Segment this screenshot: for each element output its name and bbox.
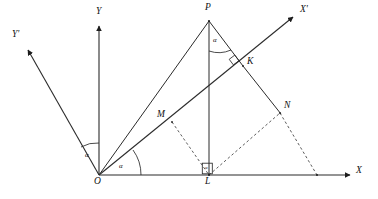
right-angle-markers-group (202, 55, 239, 174)
x-prime-axis-label: X' (300, 5, 308, 15)
point-O-label: O (94, 177, 101, 187)
segment-ML (172, 122, 209, 175)
dot-M (171, 121, 173, 123)
point-L-label: L (205, 177, 210, 187)
y-axis-label: Y (96, 7, 101, 17)
right-angle-marker-at-K (229, 55, 239, 65)
angle-arc-X-Xprime (133, 150, 141, 175)
angle-arc-Y-Yprime (81, 143, 99, 147)
point-M-label: M (157, 110, 165, 120)
x-axis-label: X (356, 166, 362, 176)
dot-N (279, 112, 281, 114)
x-prime-axis (99, 17, 293, 175)
point-P-label: P (205, 3, 211, 13)
geometry-diagram: X Y X' Y' O P L M K N α α α α (0, 0, 378, 199)
solid-segments-group (99, 21, 281, 175)
angle-label-alpha-at-L: α (205, 165, 208, 170)
angle-label-alpha-Y-Yprime: α (85, 152, 89, 159)
dot-P (208, 20, 210, 22)
segment-KN (243, 66, 281, 114)
point-K-label: K (247, 57, 253, 67)
angle-arc-at-P (209, 50, 231, 53)
y-prime-axis-label: Y' (12, 30, 19, 40)
dot-K (242, 65, 244, 67)
angle-label-alpha-X-Xprime: α (119, 163, 123, 170)
dot-foot-of-N (316, 174, 318, 176)
dashed-segments-group (172, 113, 317, 175)
axes-group (28, 17, 350, 175)
angle-label-alpha-at-P: α (213, 37, 217, 44)
point-N-label: N (284, 101, 290, 111)
geometry-canvas (0, 0, 378, 199)
segment-LN (209, 113, 280, 175)
segment-NX (280, 113, 317, 175)
